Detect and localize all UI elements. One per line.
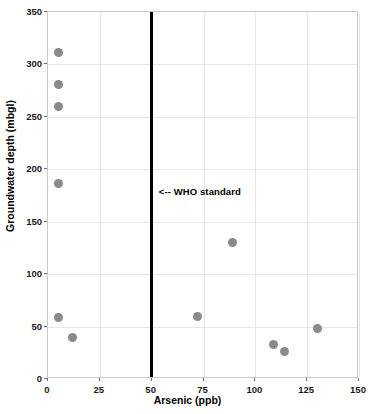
data-point bbox=[228, 238, 237, 247]
y-tick-mark bbox=[44, 326, 47, 327]
x-tick-label: 150 bbox=[350, 384, 366, 395]
y-tick-mark bbox=[44, 378, 47, 379]
y-tick-label: 0 bbox=[15, 373, 42, 384]
data-point bbox=[280, 347, 289, 356]
x-tick-mark bbox=[358, 378, 359, 381]
gridline-horizontal bbox=[48, 169, 357, 170]
y-tick-label: 150 bbox=[15, 215, 42, 226]
gridline-vertical bbox=[359, 12, 360, 377]
x-tick-mark bbox=[254, 378, 255, 381]
gridline-horizontal bbox=[48, 222, 357, 223]
y-tick-label: 300 bbox=[15, 58, 42, 69]
x-tick-label: 0 bbox=[44, 384, 49, 395]
x-tick-label: 25 bbox=[94, 384, 105, 395]
data-point bbox=[193, 312, 202, 321]
gridline-vertical bbox=[307, 12, 308, 377]
gridline-horizontal bbox=[48, 117, 357, 118]
y-tick-mark bbox=[44, 116, 47, 117]
y-tick-mark bbox=[44, 11, 47, 12]
gridline-vertical bbox=[100, 12, 101, 377]
y-tick-label: 350 bbox=[15, 6, 42, 17]
data-point bbox=[68, 333, 77, 342]
gridline-horizontal bbox=[48, 64, 357, 65]
x-tick-mark bbox=[151, 378, 152, 381]
data-point bbox=[54, 102, 63, 111]
x-tick-mark bbox=[306, 378, 307, 381]
who-standard-reference-line bbox=[150, 12, 153, 377]
data-point bbox=[313, 324, 322, 333]
data-point bbox=[54, 48, 63, 57]
y-tick-mark bbox=[44, 273, 47, 274]
x-tick-mark bbox=[47, 378, 48, 381]
gridline-horizontal bbox=[48, 274, 357, 275]
scatter-chart: <-- WHO standard Arsenic (ppb) Groundwat… bbox=[0, 0, 375, 414]
y-tick-label: 250 bbox=[15, 110, 42, 121]
gridline-vertical bbox=[255, 12, 256, 377]
x-tick-label: 50 bbox=[145, 384, 156, 395]
data-point bbox=[54, 80, 63, 89]
data-point bbox=[269, 340, 278, 349]
y-tick-mark bbox=[44, 63, 47, 64]
data-point bbox=[54, 313, 63, 322]
y-tick-mark bbox=[44, 221, 47, 222]
data-point bbox=[54, 179, 63, 188]
y-tick-mark bbox=[44, 168, 47, 169]
y-tick-label: 50 bbox=[15, 320, 42, 331]
x-tick-mark bbox=[203, 378, 204, 381]
x-tick-label: 100 bbox=[246, 384, 262, 395]
who-standard-annotation: <-- WHO standard bbox=[159, 186, 241, 197]
plot-area: <-- WHO standard bbox=[47, 11, 358, 378]
x-tick-label: 125 bbox=[298, 384, 314, 395]
y-tick-label: 200 bbox=[15, 163, 42, 174]
x-axis-title: Arsenic (ppb) bbox=[0, 394, 375, 406]
x-tick-label: 75 bbox=[197, 384, 208, 395]
y-tick-label: 100 bbox=[15, 268, 42, 279]
gridline-horizontal bbox=[48, 327, 357, 328]
x-tick-mark bbox=[99, 378, 100, 381]
